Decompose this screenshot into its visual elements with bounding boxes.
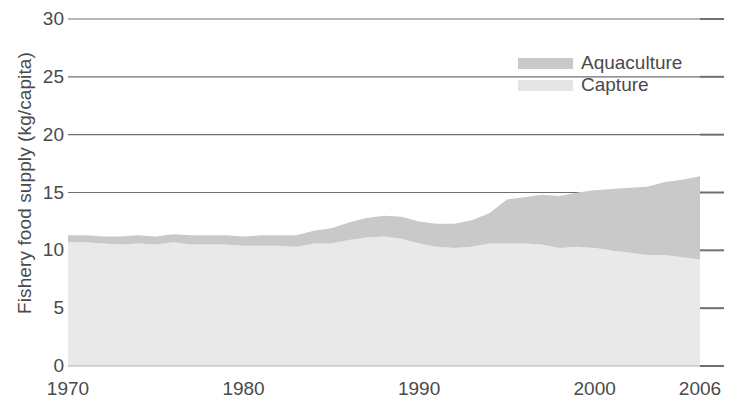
x-tick-label: 2000 <box>574 378 616 400</box>
x-tick-label: 2006 <box>679 378 721 400</box>
x-tick-label: 1970 <box>47 378 89 400</box>
chart-container: Fishery food supply (kg/capita) 30252015… <box>0 0 743 414</box>
legend-label-capture: Capture <box>581 74 649 96</box>
legend-swatch-aquaculture <box>518 58 573 69</box>
chart-legend: Aquaculture Capture <box>518 52 682 96</box>
x-tick-label: 1990 <box>398 378 440 400</box>
area-series-group <box>68 176 700 366</box>
area-series-capture <box>68 236 700 366</box>
legend-swatch-capture <box>518 80 573 91</box>
legend-item-aquaculture[interactable]: Aquaculture <box>518 52 682 74</box>
legend-label-aquaculture: Aquaculture <box>581 52 682 74</box>
right-axis-ticks-group <box>700 19 724 366</box>
legend-item-capture[interactable]: Capture <box>518 74 682 96</box>
x-tick-label: 1980 <box>222 378 264 400</box>
